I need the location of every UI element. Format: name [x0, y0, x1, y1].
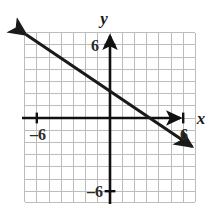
- x-tick-label-minus6: –6: [29, 126, 46, 143]
- x-axis-label: x: [196, 109, 206, 128]
- graph-figure: y x 6 –6 –6 6: [0, 0, 213, 206]
- y-axis-label: y: [98, 9, 108, 28]
- coordinate-plane-svg: y x 6 –6 –6 6: [0, 0, 213, 206]
- y-tick-label-6: 6: [91, 37, 99, 54]
- y-tick-label-minus6: –6: [86, 183, 103, 200]
- x-tick-label-6: 6: [180, 126, 188, 143]
